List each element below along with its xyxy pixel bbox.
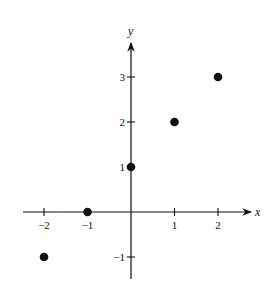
data-point: [170, 118, 179, 127]
x-axis-label: x: [254, 205, 261, 219]
y-axis-label: y: [127, 24, 134, 38]
x-tick-label: −1: [82, 219, 94, 231]
y-tick-label: −1: [113, 251, 125, 263]
scatter-plot: x y −2−112−1123: [0, 0, 269, 283]
y-tick-label: 3: [120, 71, 126, 83]
data-point: [214, 73, 223, 82]
y-tick-label: 1: [120, 161, 126, 173]
x-tick-label: −2: [38, 219, 50, 231]
y-tick-label: 2: [120, 116, 126, 128]
data-point: [83, 208, 92, 217]
x-tick-label: 1: [172, 219, 178, 231]
x-tick-label: 2: [215, 219, 221, 231]
data-point: [127, 163, 136, 172]
data-point: [40, 253, 49, 262]
